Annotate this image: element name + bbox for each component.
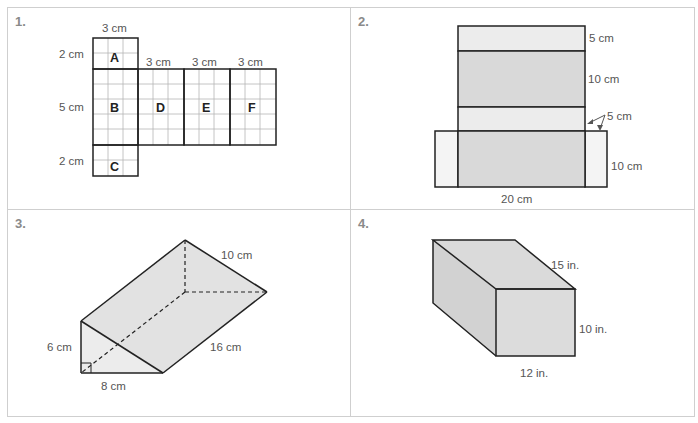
label-b-height: 5 cm xyxy=(59,101,84,113)
label-lower-strip: 5 cm xyxy=(607,110,632,122)
rectangular-prism-diagram: 15 in. 10 in. 12 in. xyxy=(351,210,696,418)
net-diagram-1: 3 cm 2 cm 5 cm 2 cm 3 cm 3 cm 3 cm A B C… xyxy=(8,8,353,212)
label-hypotenuse: 10 cm xyxy=(221,249,252,261)
label-base: 8 cm xyxy=(101,380,126,392)
label-top-strip: 5 cm xyxy=(589,32,614,44)
net-diagram-2: 5 cm 10 cm 5 cm 10 cm 20 cm xyxy=(351,8,696,212)
label-height: 10 in. xyxy=(579,323,607,335)
label-c-height: 2 cm xyxy=(59,155,84,167)
label-height: 6 cm xyxy=(47,341,72,353)
face-label-b: B xyxy=(110,101,119,115)
face-label-d: D xyxy=(156,101,165,115)
face-label-c: C xyxy=(110,160,119,174)
face-label-e: E xyxy=(202,101,210,115)
label-top-width: 3 cm xyxy=(102,22,127,34)
problem-4-panel: 4. 15 in. 10 in. 12 in. xyxy=(350,209,695,417)
problem-1-panel: 1. xyxy=(7,7,352,211)
label-width: 20 cm xyxy=(501,193,532,205)
triangular-prism-diagram: 10 cm 6 cm 8 cm 16 cm xyxy=(8,210,353,418)
label-depth: 15 in. xyxy=(551,259,579,271)
label-width: 12 in. xyxy=(520,367,548,379)
problem-2-panel: 2. 5 cm 10 cm 5 cm 10 cm 20 cm xyxy=(350,7,695,211)
label-d-width: 3 cm xyxy=(146,56,171,68)
face-label-a: A xyxy=(110,51,119,65)
label-f-width: 3 cm xyxy=(238,56,263,68)
label-bottom-face: 10 cm xyxy=(611,160,642,172)
label-middle-face: 10 cm xyxy=(588,73,619,85)
label-a-height: 2 cm xyxy=(59,48,84,60)
label-e-width: 3 cm xyxy=(192,56,217,68)
label-length: 16 cm xyxy=(210,341,241,353)
problem-3-panel: 3. 10 cm 6 cm 8 cm 16 cm xyxy=(7,209,352,417)
face-label-f: F xyxy=(248,101,256,115)
